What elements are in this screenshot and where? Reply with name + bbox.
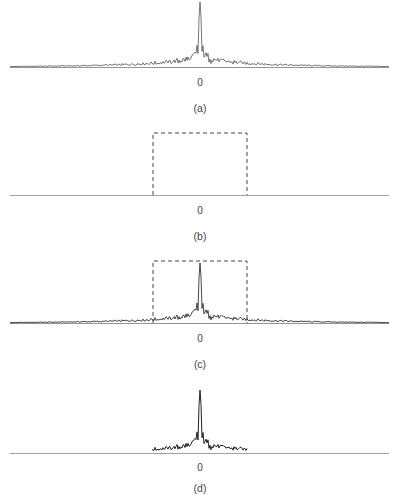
panel-a-plot (10, 2, 389, 68)
panel-b-caption: (b) (170, 230, 230, 242)
panel-c-origin-label: 0 (170, 333, 230, 344)
panel-c-signal (10, 263, 389, 323)
panel-c-caption: (c) (170, 358, 230, 370)
panel-a-origin-label: 0 (170, 77, 230, 88)
panel-d-plot (10, 390, 389, 454)
panel-b-plot (10, 133, 389, 196)
panel-c-plot (10, 261, 389, 324)
panel-a-caption: (a) (170, 102, 230, 114)
figure-canvas (0, 0, 396, 503)
panel-c-window (153, 261, 247, 323)
panel-d-caption: (d) (170, 482, 230, 494)
panel-b-window (153, 133, 247, 195)
panel-d-signal (152, 390, 247, 451)
panel-d-origin-label: 0 (170, 462, 230, 473)
panel-b-origin-label: 0 (170, 205, 230, 216)
panel-a-signal (10, 2, 389, 67)
